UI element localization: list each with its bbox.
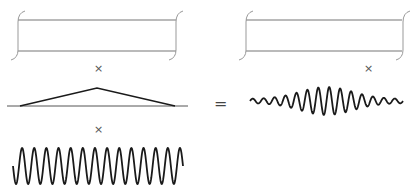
right-bracket-close [396,11,410,60]
times-operator-lower: × [94,124,103,135]
times-operator-top-right: × [364,63,373,74]
left-box [11,11,183,60]
equals-operator: = [214,96,227,112]
left-bracket-close [169,11,183,60]
right-box [239,11,410,60]
diagram-canvas [0,0,411,193]
triangle-envelope [7,88,188,106]
right-bracket-open [239,11,253,60]
times-operator-top-left: × [94,63,103,74]
carrier-sine-wave [13,148,183,184]
wave-packet [250,87,403,115]
left-bracket-open [11,11,25,60]
